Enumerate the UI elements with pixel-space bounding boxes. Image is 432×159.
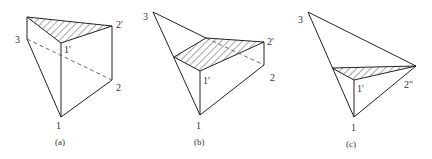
diagram-canvas: 3 1' 2' 2 1 (a) 3 1' 2' 2 1 (b) 3 1' 2" … bbox=[0, 0, 432, 159]
caption-c: (c) bbox=[346, 139, 356, 149]
hatched-section-c bbox=[332, 66, 416, 80]
figure-c: 3 1' 2" 1 (c) bbox=[298, 12, 416, 149]
label-1prime: 1' bbox=[357, 83, 364, 94]
figure-a: 3 1' 2' 2 1 (a) bbox=[15, 17, 123, 147]
label-3: 3 bbox=[143, 11, 148, 22]
caption-a: (a) bbox=[55, 137, 65, 147]
label-3: 3 bbox=[298, 14, 303, 25]
edge-1-2 bbox=[61, 80, 112, 117]
label-1: 1 bbox=[196, 120, 201, 131]
label-1prime: 1' bbox=[203, 75, 210, 86]
edge-3-top bbox=[153, 12, 206, 38]
label-2: 2 bbox=[270, 72, 275, 83]
label-2prime: 2' bbox=[267, 36, 274, 47]
edge-3-1 bbox=[27, 39, 61, 117]
hatched-section-a bbox=[27, 17, 112, 43]
label-2doubleprime: 2" bbox=[404, 79, 413, 90]
edge-3-2 bbox=[308, 12, 416, 66]
figure-b: 3 1' 2' 2 1 (b) bbox=[143, 11, 275, 147]
label-1: 1 bbox=[351, 122, 356, 133]
label-3: 3 bbox=[15, 34, 20, 45]
hatched-section-b bbox=[174, 38, 264, 71]
label-2: 2 bbox=[116, 82, 121, 93]
label-2prime: 2' bbox=[116, 19, 123, 30]
edge-1-2 bbox=[200, 65, 264, 115]
label-1: 1 bbox=[56, 120, 61, 131]
label-1prime: 1' bbox=[64, 44, 71, 55]
caption-b: (b) bbox=[194, 137, 205, 147]
edge-3-1 bbox=[308, 12, 354, 117]
